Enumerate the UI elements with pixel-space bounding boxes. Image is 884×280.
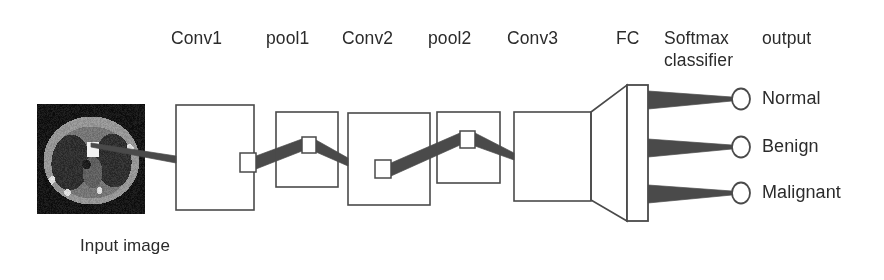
output-label-normal: Normal <box>762 88 821 108</box>
header-label-pool1: pool1 <box>266 28 309 48</box>
fully-connected-bar <box>627 85 648 221</box>
input-image-caption: Input image <box>80 236 170 256</box>
header-label-conv3: Conv3 <box>507 28 558 48</box>
header-label-softmax: Softmax <box>664 28 729 48</box>
output-node-benign <box>732 137 750 158</box>
fc-to-malignant <box>648 185 732 203</box>
fc-to-benign <box>648 139 732 157</box>
output-node-malignant <box>732 183 750 204</box>
header-label-output: output <box>762 28 811 48</box>
header-label-conv1: Conv1 <box>171 28 222 48</box>
header-label-classifier: classifier <box>664 50 733 70</box>
output-label-malignant: Malignant <box>762 182 841 202</box>
flatten-cone <box>591 85 627 221</box>
receptive-field-patch-conv1 <box>240 153 256 172</box>
layer-box-conv2 <box>348 113 430 205</box>
layer-boxes-group <box>176 105 591 210</box>
cnn-architecture-figure: Conv1 pool1 Conv2 pool2 Conv3 FC Softmax… <box>0 0 884 280</box>
header-label-conv2: Conv2 <box>342 28 393 48</box>
output-nodes-group <box>732 89 750 204</box>
receptive-field-patch-pool2 <box>460 131 475 148</box>
output-label-benign: Benign <box>762 136 819 156</box>
receptive-field-patch-pool1 <box>302 137 316 153</box>
output-node-normal <box>732 89 750 110</box>
header-label-pool2: pool2 <box>428 28 471 48</box>
input-to-conv1 <box>91 143 176 163</box>
fc-to-normal <box>648 91 732 109</box>
fully-connected-group <box>591 85 648 221</box>
header-label-fc: FC <box>616 28 640 48</box>
receptive-field-patch-conv2 <box>375 160 391 178</box>
layer-box-conv3 <box>514 112 591 201</box>
